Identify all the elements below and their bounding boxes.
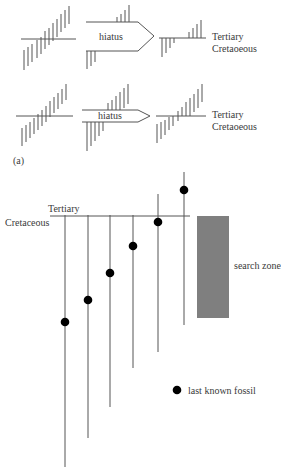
- row2-hiatus-label: hiatus: [98, 110, 122, 121]
- search-zone-box: [197, 216, 229, 318]
- row1-right-block: [159, 20, 206, 57]
- cretaceous-label: Cretaceous: [5, 217, 49, 228]
- legend-label: last known fossil: [188, 385, 256, 396]
- last-fossil-marker-1: [61, 318, 70, 327]
- fossil-markers: [61, 186, 189, 327]
- row1-tertiary-label: Tertiary: [212, 31, 244, 42]
- last-fossil-marker-2: [84, 296, 93, 305]
- row2-cretaceous-label: Cretaoeous: [212, 121, 257, 132]
- row2-right-block: [156, 84, 206, 143]
- last-fossil-marker-3: [106, 269, 115, 278]
- row1-left-block: [21, 6, 76, 70]
- last-fossil-marker-5: [154, 218, 163, 227]
- row1-cretaceous-label: Cretaoeous: [212, 43, 257, 54]
- last-fossil-marker-4: [129, 242, 138, 251]
- diagram-canvas: [0, 0, 281, 467]
- row1-hiatus-label: hiatus: [99, 31, 123, 42]
- legend-fossil-marker: [173, 386, 182, 395]
- row2-tertiary-label: Tertiary: [212, 109, 244, 120]
- search-zone-label: search zone: [234, 260, 281, 271]
- tertiary-label: Tertiary: [48, 203, 80, 214]
- row2-left-block: [16, 84, 73, 146]
- panel-a-label: (a): [13, 155, 24, 166]
- last-fossil-marker-6: [180, 186, 189, 195]
